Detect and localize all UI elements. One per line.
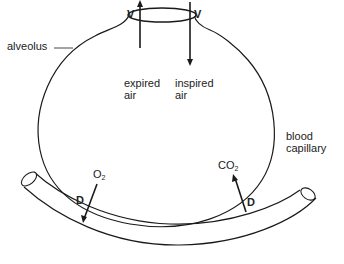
alveolus-outline xyxy=(38,15,274,227)
ventilation-out-label: V xyxy=(127,8,134,20)
alveolus-opening xyxy=(128,8,196,22)
expired-air-label: expired air xyxy=(124,77,160,101)
alveolus-label: alveolus xyxy=(7,40,47,52)
o2-label: O2 xyxy=(93,168,105,184)
co2-diffusion-arrow-icon xyxy=(232,174,246,212)
diffusion-left-label: D xyxy=(76,194,84,206)
ventilation-in-label: V xyxy=(194,8,201,20)
blood-capillary-label: blood capillary xyxy=(286,130,326,154)
blood-capillary xyxy=(19,169,318,245)
diffusion-right-label: D xyxy=(247,196,255,208)
expired-arrow-icon xyxy=(137,0,143,48)
inspired-air-label: inspired air xyxy=(175,77,214,101)
co2-label: CO2 xyxy=(218,159,238,175)
